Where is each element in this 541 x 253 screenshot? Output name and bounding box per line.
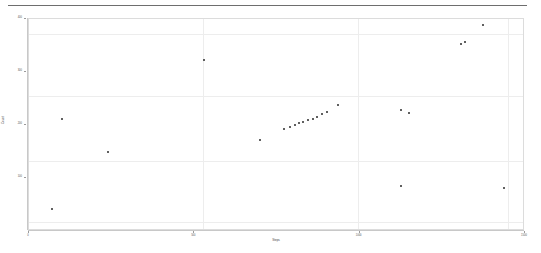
x-tick-label: 500 — [191, 235, 195, 238]
data-point — [107, 151, 109, 153]
x-tick-mark — [359, 231, 360, 233]
y-tick-label: 400 — [18, 17, 22, 20]
y-tick-mark — [24, 18, 26, 19]
scatter-plot-figure: 400300200100 050010001500 Steps Count — [0, 0, 541, 253]
data-point — [203, 59, 205, 61]
data-point — [283, 128, 285, 130]
x-tick-label: 1000 — [356, 235, 362, 238]
data-point — [400, 185, 402, 187]
y-axis-tick-labels: 400300200100 — [0, 18, 26, 230]
plot-panel — [28, 18, 524, 230]
data-point — [312, 118, 314, 120]
y-axis-title: Count — [2, 116, 5, 124]
data-point — [460, 43, 462, 45]
y-axis-spine — [27, 18, 28, 230]
y-tick-label: 100 — [18, 176, 22, 179]
data-point — [51, 208, 53, 210]
gridline-vertical — [203, 19, 204, 229]
y-tick-mark — [24, 71, 26, 72]
data-point — [408, 112, 410, 114]
data-point — [326, 111, 328, 113]
gridline-vertical — [358, 19, 359, 229]
data-point — [294, 124, 296, 126]
x-tick-mark — [524, 231, 525, 233]
x-axis-title: Steps — [28, 239, 524, 242]
gridline-horizontal — [29, 96, 523, 97]
x-tick-label: 0 — [27, 235, 28, 238]
header-rule — [8, 5, 527, 6]
gridline-horizontal — [29, 222, 523, 223]
data-point — [307, 119, 309, 121]
data-point — [61, 118, 63, 120]
data-point — [316, 116, 318, 118]
y-tick-label: 200 — [18, 123, 22, 126]
gridline-horizontal — [29, 161, 523, 162]
data-point — [503, 187, 505, 189]
data-point — [289, 126, 291, 128]
gridline-horizontal — [29, 34, 523, 35]
data-point — [302, 121, 304, 123]
y-tick-mark — [24, 124, 26, 125]
gridline-vertical — [508, 19, 509, 229]
y-tick-mark — [24, 177, 26, 178]
x-tick-mark — [28, 231, 29, 233]
data-point — [321, 113, 323, 115]
x-tick-mark — [193, 231, 194, 233]
data-point — [400, 109, 402, 111]
data-point — [337, 104, 339, 106]
data-point — [259, 139, 261, 141]
x-tick-label: 1500 — [521, 235, 527, 238]
data-point — [482, 24, 484, 26]
y-tick-label: 300 — [18, 70, 22, 73]
data-point — [464, 41, 466, 43]
data-point — [298, 122, 300, 124]
